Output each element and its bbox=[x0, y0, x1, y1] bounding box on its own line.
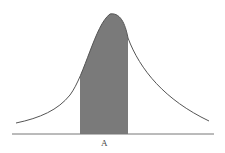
bell-curve-diagram bbox=[0, 0, 225, 153]
region-label: A bbox=[101, 139, 108, 148]
shaded-region bbox=[16, 14, 209, 134]
